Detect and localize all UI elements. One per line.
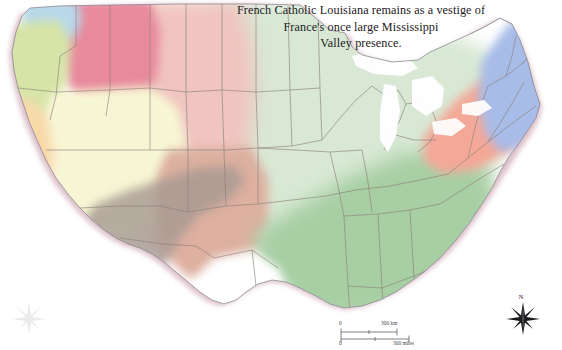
scale-km-start: 0 [339, 320, 342, 326]
compass-rose-watermark [2, 288, 56, 346]
compass-north-label: N [519, 293, 524, 300]
scale-miles-start: 0 [339, 340, 342, 346]
map-scale-bar: 0 300 km 0 300 miles [337, 320, 421, 346]
scale-miles-end: 300 miles [393, 340, 414, 346]
compass-rose: N [496, 288, 550, 346]
region-color-bands [0, 0, 562, 342]
us-religious-regions-map [0, 0, 562, 350]
scale-km-end: 300 km [381, 320, 397, 326]
map-figure: French Catholic Louisiana remains as a v… [0, 0, 562, 350]
